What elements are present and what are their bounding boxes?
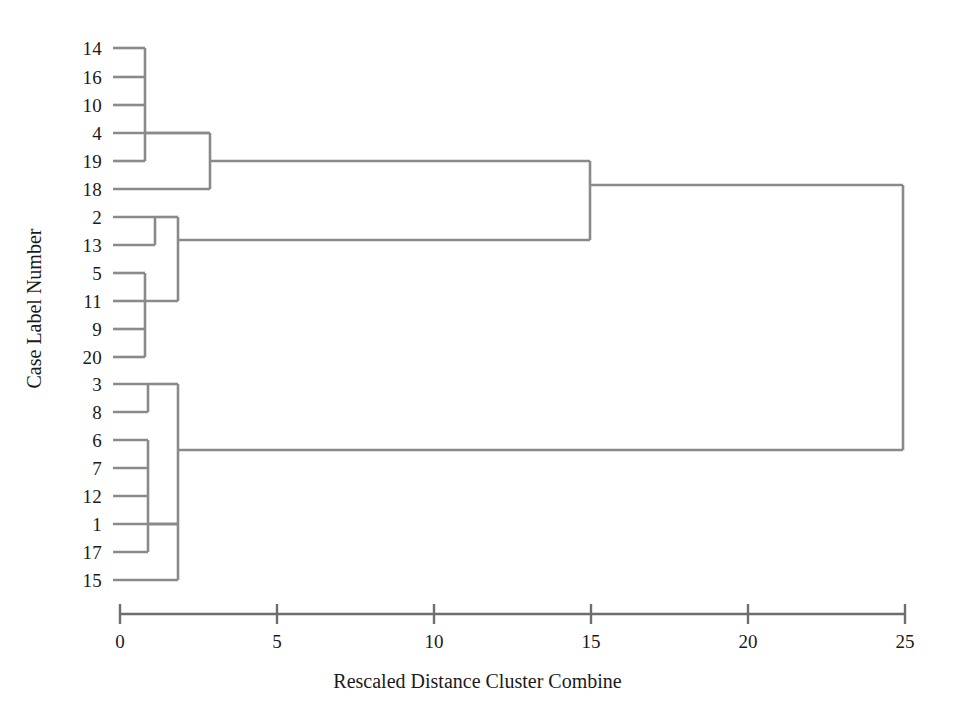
leaf-label-15: 15	[56, 571, 102, 590]
leaf-label-20: 20	[56, 348, 102, 367]
x-axis-title: Rescaled Distance Cluster Combine	[0, 670, 955, 693]
leaf-label-19: 19	[56, 152, 102, 171]
leaf-label-8: 8	[56, 403, 102, 422]
leaf-label-7: 7	[56, 459, 102, 478]
leaf-label-16: 16	[56, 68, 102, 87]
leaf-label-11: 11	[56, 292, 102, 311]
leaf-label-12: 12	[56, 487, 102, 506]
leaf-label-6: 6	[56, 431, 102, 450]
leaf-label-13: 13	[56, 236, 102, 255]
x-axis	[120, 604, 905, 624]
leaf-label-1: 1	[56, 515, 102, 534]
leaf-label-2: 2	[56, 208, 102, 227]
leaf-label-14: 14	[56, 39, 102, 58]
leaf-label-10: 10	[56, 96, 102, 115]
x-tick-label-25: 25	[875, 632, 935, 651]
y-axis-title: Case Label Number	[23, 179, 46, 439]
leaf-label-9: 9	[56, 320, 102, 339]
dendrogram-plot	[0, 0, 955, 709]
dendrogram-figure: 14 16 10 4 19 18 2 13 5 11 9 20 3 8 6 7 …	[0, 0, 955, 709]
x-tick-label-10: 10	[404, 632, 464, 651]
leaf-label-4: 4	[56, 124, 102, 143]
x-tick-label-5: 5	[247, 632, 307, 651]
x-tick-label-15: 15	[561, 632, 621, 651]
x-tick-label-20: 20	[718, 632, 778, 651]
leaf-label-17: 17	[56, 543, 102, 562]
x-tick-label-0: 0	[90, 632, 150, 651]
leaf-label-18: 18	[56, 180, 102, 199]
leaf-label-5: 5	[56, 264, 102, 283]
dendrogram-tree	[113, 48, 903, 580]
leaf-label-3: 3	[56, 375, 102, 394]
